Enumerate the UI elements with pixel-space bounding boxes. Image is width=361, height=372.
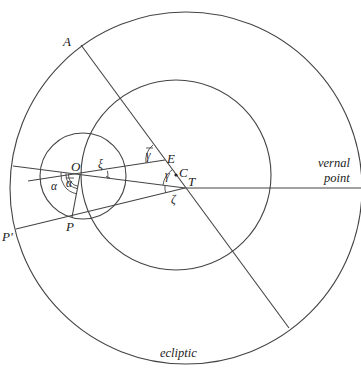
label-P: P	[65, 219, 74, 234]
label-P-prime: P′	[1, 229, 13, 244]
astronomy-diagram: A O E C T P P′ α α ξ γ γ ζ vernal point …	[0, 0, 361, 372]
label-zeta: ζ	[171, 193, 177, 206]
label-T: T	[188, 174, 196, 189]
label-C: C	[179, 165, 188, 180]
label-alpha-bar: α	[66, 177, 73, 189]
label-E: E	[166, 151, 175, 166]
label-gamma-bar: γ	[146, 149, 151, 162]
label-vernal: vernal	[318, 156, 350, 170]
line-O-P	[72, 175, 80, 217]
label-point: point	[323, 171, 350, 185]
label-A: A	[62, 34, 71, 49]
point-C-dot	[174, 173, 177, 176]
label-O: O	[71, 159, 81, 174]
line-P-T	[16, 188, 185, 229]
label-gamma: γ	[165, 169, 170, 182]
label-alpha: α	[51, 180, 58, 192]
epicycle-circle	[40, 133, 126, 219]
label-ecliptic: ecliptic	[160, 346, 197, 360]
label-xi: ξ	[98, 158, 103, 171]
zeta-arc	[165, 186, 166, 194]
line-A-T	[81, 45, 289, 328]
